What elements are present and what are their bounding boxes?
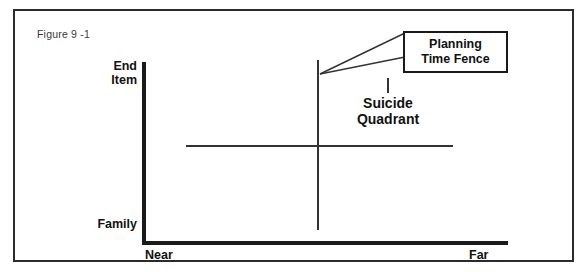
y-axis-label-family: Family: [59, 217, 137, 231]
y-axis-label-end-item-line1: End: [59, 59, 137, 73]
figure-caption: Figure 9 -1: [37, 28, 90, 40]
y-axis-line: [142, 62, 146, 245]
quadrant-horizontal-line: [186, 145, 453, 147]
figure-frame: Figure 9 -1 End Item Family Near Far Sui…: [13, 9, 574, 262]
suicide-quadrant-label-line2: Quadrant: [327, 111, 449, 127]
suicide-quadrant-label-line1: Suicide: [327, 95, 449, 111]
figure-screenshot: Figure 9 -1 End Item Family Near Far Sui…: [0, 0, 587, 272]
y-axis-label-end-item-line2: Item: [59, 73, 137, 87]
x-axis-label-near: Near: [145, 248, 173, 262]
x-axis-label-far: Far: [469, 248, 488, 262]
x-axis-line: [142, 241, 508, 245]
callout-pointer-lines: [315, 29, 410, 81]
planning-time-fence-label-line2: Time Fence: [421, 52, 490, 67]
planning-time-fence-callout-box: Planning Time Fence: [403, 31, 508, 73]
y-axis-label-end-item: End Item: [59, 59, 137, 87]
suicide-quadrant-label: Suicide Quadrant: [327, 95, 449, 127]
planning-time-fence-label-line1: Planning: [429, 37, 482, 52]
